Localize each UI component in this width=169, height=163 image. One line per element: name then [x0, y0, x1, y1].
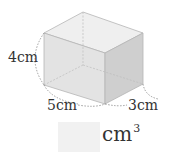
- width-label: 5cm: [47, 97, 77, 113]
- unit-text: cm: [102, 122, 132, 146]
- depth-arc: [105, 104, 127, 106]
- unit-label: cm3: [102, 122, 140, 146]
- unit-exponent: 3: [133, 122, 140, 135]
- answer-input[interactable]: [58, 122, 100, 152]
- depth-label: 3cm: [128, 97, 158, 113]
- height-label: 4cm: [8, 49, 38, 65]
